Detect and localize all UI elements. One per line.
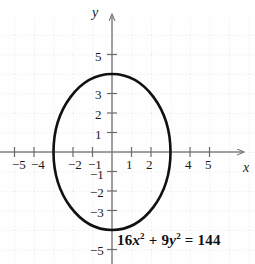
y-tick-label-5: 5 [95, 50, 102, 63]
x-tick-label-5: 5 [205, 158, 212, 171]
equation-coefficient-x: 16 [117, 232, 132, 248]
y-tick-label-neg1: −1 [90, 168, 104, 181]
equation-constant: 144 [198, 232, 221, 248]
y-tick-label-neg2: −2 [90, 186, 104, 199]
y-tick-label-neg3: −3 [90, 206, 104, 219]
equation-operator: + [149, 232, 158, 248]
x-axis-label: x [243, 161, 249, 175]
x-tick-label-neg2: −2 [68, 158, 82, 171]
y-tick-label-1: 1 [95, 128, 102, 141]
x-tick-label-1: 1 [126, 158, 133, 171]
plot-canvas [0, 0, 255, 264]
x-tick-label-neg5: −5 [12, 158, 26, 171]
x-tick-label-neg4: −4 [31, 158, 45, 171]
y-tick-label-2: 2 [95, 108, 102, 121]
x-tick-label-2: 2 [146, 158, 153, 171]
equation-equals: = [185, 232, 194, 248]
equation-var-x: x [132, 232, 140, 248]
ellipse-figure: y x −5 −4 −2 −1 1 2 4 5 5 3 2 1 −1 −2 −3… [0, 0, 255, 264]
x-tick-label-4: 4 [185, 158, 192, 171]
y-tick-label-neg5: −5 [90, 244, 104, 257]
y-tick-label-3: 3 [95, 88, 102, 101]
equation-label: 16x2+9y2=144 [117, 232, 221, 249]
y-axis-label: y [92, 6, 98, 20]
equation-exponent-x: 2 [140, 231, 145, 241]
equation-exponent-y: 2 [176, 231, 181, 241]
